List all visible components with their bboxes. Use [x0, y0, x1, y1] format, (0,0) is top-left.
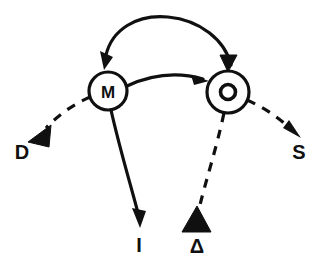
arrowhead-m-to-o-icon: [191, 75, 209, 85]
edge-arc-o-to-m-path: [106, 17, 231, 65]
arrowhead-i-icon: [132, 208, 146, 228]
edge-o-to-s: [247, 100, 301, 138]
edge-m-to-d-path: [46, 97, 90, 128]
diagram-canvas: M O D I Δ S: [0, 0, 320, 269]
endpoint-label-i: I: [136, 234, 142, 256]
arrowhead-delta-icon: [182, 206, 211, 232]
arrowhead-d-icon: [28, 125, 51, 147]
edge-m-to-o: [127, 75, 209, 86]
arrowhead-s-icon: [283, 120, 301, 138]
edge-m-to-i: [111, 110, 146, 228]
endpoint-label-s: S: [292, 141, 305, 163]
edge-o-to-delta: [182, 113, 224, 232]
node-m[interactable]: M: [89, 72, 127, 110]
endpoint-label-d: D: [15, 141, 29, 163]
diagram-svg: M O D I Δ S: [0, 0, 320, 269]
edge-m-to-i-path: [111, 110, 138, 213]
endpoint-label-delta: Δ: [190, 235, 204, 257]
edge-m-to-d: [28, 97, 90, 147]
edge-arc-o-to-m: [100, 17, 237, 72]
node-m-label: M: [101, 83, 115, 102]
node-o[interactable]: O: [207, 71, 249, 113]
node-o-circle: [207, 71, 249, 113]
edge-o-to-delta-path: [200, 113, 224, 205]
